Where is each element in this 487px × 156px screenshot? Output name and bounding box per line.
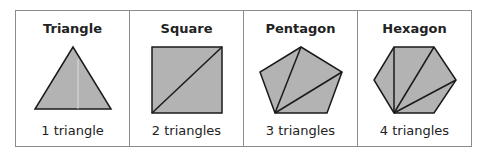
shapes-table: Triangle 1 triangle Square 2 triangles P…: [15, 10, 472, 147]
pentagon-icon: [258, 45, 344, 115]
triangle-icon: [33, 45, 113, 111]
column-title: Square: [130, 21, 243, 36]
column-title: Pentagon: [244, 21, 357, 36]
cell-triangle: Triangle 1 triangle: [16, 11, 130, 146]
cell-pentagon: Pentagon 3 triangles: [244, 11, 358, 146]
column-title: Hexagon: [358, 21, 471, 36]
cell-hexagon: Hexagon 4 triangles: [358, 11, 471, 146]
cell-square: Square 2 triangles: [130, 11, 244, 146]
hexagon-icon: [372, 45, 458, 115]
column-caption: 3 triangles: [244, 123, 357, 138]
column-caption: 1 triangle: [16, 123, 129, 138]
column-caption: 2 triangles: [130, 123, 243, 138]
column-caption: 4 triangles: [358, 123, 471, 138]
column-title: Triangle: [16, 21, 129, 36]
square-icon: [150, 45, 224, 115]
